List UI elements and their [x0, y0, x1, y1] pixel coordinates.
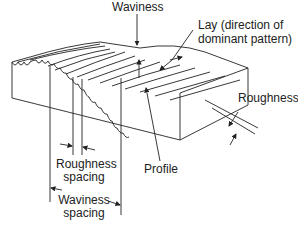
- label-waviness: Waviness: [112, 1, 164, 14]
- label-lay-line1: Lay (direction of: [198, 19, 283, 32]
- label-lay-line2: dominant pattern): [198, 33, 292, 46]
- label-roughness: Roughness: [238, 92, 298, 105]
- label-waviness-spacing-line2: spacing: [58, 207, 110, 220]
- label-profile: Profile: [144, 163, 178, 176]
- label-roughness-spacing-line2: spacing: [56, 171, 112, 184]
- surface-texture-diagram: Waviness Lay (direction of dominant patt…: [0, 0, 298, 225]
